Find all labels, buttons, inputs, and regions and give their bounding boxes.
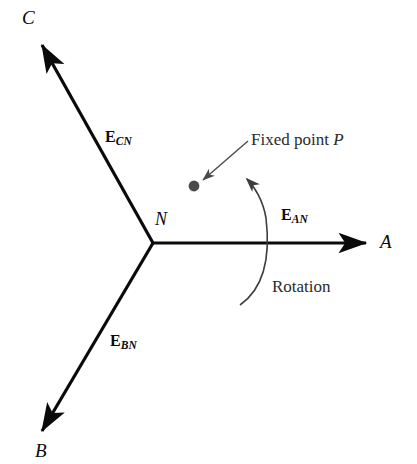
fixed-point-dot: [189, 181, 200, 192]
rotation-annotation: Rotation: [272, 278, 331, 295]
phasor-label-ebn-subscript: BN: [121, 339, 137, 351]
phasor-label-ean-subscript: AN: [292, 213, 308, 225]
neutral-node-label: N: [155, 210, 167, 228]
axis-terminal-label-b: B: [35, 441, 47, 460]
phasor-label-ebn: EBN: [110, 333, 137, 349]
phasor-label-ecn-subscript: CN: [116, 135, 132, 147]
phasor-label-ecn: ECN: [105, 129, 132, 145]
phasor-label-ebn-prefix: E: [110, 332, 121, 349]
phasor-diagram-figure: C A B N ECN EAN EBN Fixed point P Rotati…: [0, 0, 417, 464]
phasor-line-cn: [42, 45, 153, 243]
phasor-label-ean-prefix: E: [281, 206, 292, 223]
phasor-label-ean: EAN: [281, 207, 308, 223]
fixed-point-annotation-text: Fixed point: [251, 130, 333, 149]
phasor-label-ecn-prefix: E: [105, 128, 116, 145]
fixed-point-leader-line: [203, 141, 248, 180]
fixed-point-annotation-symbol: P: [333, 130, 343, 149]
phasor-diagram-canvas: [0, 0, 417, 464]
fixed-point-annotation: Fixed point P: [251, 131, 344, 148]
axis-terminal-label-c: C: [22, 8, 35, 27]
axis-terminal-label-a: A: [380, 232, 392, 251]
